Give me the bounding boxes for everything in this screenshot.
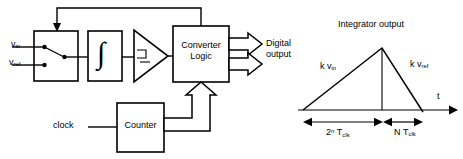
chart-title: Integrator output [338, 20, 404, 30]
deintegration-dimension [383, 118, 423, 126]
figure-canvas: vin vref ∫ Converter Logic clock Counter… [0, 0, 463, 159]
fixed-integration-time-label: 2n Tclk [326, 128, 350, 138]
run-up-slope-label: k vin [320, 62, 336, 72]
time-axis-label: t [437, 92, 440, 102]
deintegration-time-label: N Tclk [394, 128, 416, 138]
run-down-slope-label: k vref [410, 60, 428, 70]
time-axis [298, 106, 458, 115]
fixed-integration-dimension [303, 118, 383, 126]
integrator-output-waveform [303, 48, 423, 112]
